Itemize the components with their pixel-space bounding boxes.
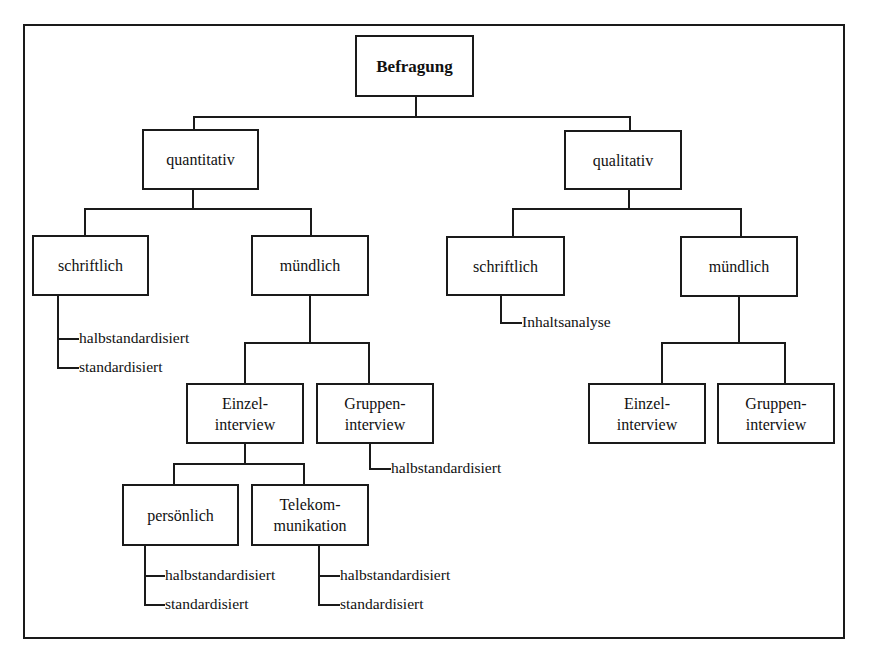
- node-qual-gruppeninterview: Gruppen- interview: [717, 383, 835, 444]
- node-label: Telekom- munikation: [274, 494, 347, 536]
- node-qualitativ: qualitativ: [564, 130, 682, 190]
- node-telekommunikation: Telekom- munikation: [251, 484, 369, 546]
- leaf-halbstandardisiert: halbstandardisiert: [340, 566, 450, 584]
- connector: [57, 367, 79, 369]
- connector: [244, 342, 246, 384]
- connector: [57, 295, 59, 369]
- connector: [661, 342, 663, 384]
- connector: [303, 463, 305, 485]
- node-label: mündlich: [280, 255, 340, 276]
- node-label: Gruppen- interview: [745, 393, 806, 435]
- node-label: persönlich: [147, 505, 214, 526]
- connector: [57, 338, 79, 340]
- leaf-standardisiert: standardisiert: [79, 358, 163, 376]
- connector: [628, 189, 630, 210]
- connector: [629, 116, 631, 130]
- leaf-standardisiert: standardisiert: [165, 595, 249, 613]
- connector: [500, 295, 502, 324]
- node-befragung: Befragung: [355, 35, 474, 97]
- node-label: schriftlich: [58, 255, 123, 276]
- connector: [738, 296, 740, 344]
- connector: [309, 295, 311, 343]
- leaf-inhaltsanalyse: Inhaltsanalyse: [522, 313, 611, 331]
- connector: [369, 468, 391, 470]
- node-qual-einzelinterview: Einzel- interview: [588, 383, 706, 444]
- connector: [193, 116, 631, 118]
- node-quant-schriftlich: schriftlich: [32, 235, 149, 296]
- leaf-halbstandardisiert: halbstandardisiert: [79, 329, 189, 347]
- node-qual-schriftlich: schriftlich: [446, 236, 565, 296]
- node-quant-gruppeninterview: Gruppen- interview: [316, 383, 434, 444]
- node-label: Befragung: [376, 56, 453, 77]
- node-label: schriftlich: [473, 256, 538, 277]
- node-label: Einzel- interview: [617, 393, 677, 435]
- connector: [318, 575, 340, 577]
- node-label: qualitativ: [593, 150, 653, 171]
- connector: [369, 443, 371, 470]
- connector: [310, 208, 312, 236]
- node-label: Gruppen- interview: [344, 393, 405, 435]
- leaf-halbstandardisiert: halbstandardisiert: [391, 459, 501, 477]
- connector: [661, 342, 786, 344]
- connector: [740, 208, 742, 236]
- node-persoenlich: persönlich: [122, 484, 239, 546]
- connector: [192, 189, 194, 210]
- connector: [512, 208, 514, 236]
- connector: [84, 208, 312, 210]
- node-label: quantitativ: [166, 149, 234, 170]
- node-quant-muendlich: mündlich: [251, 235, 369, 296]
- connector: [368, 342, 370, 384]
- leaf-standardisiert: standardisiert: [340, 595, 424, 613]
- connector: [784, 342, 786, 384]
- connector: [500, 322, 522, 324]
- connector: [173, 463, 305, 465]
- connector: [193, 116, 195, 130]
- connector: [173, 463, 175, 485]
- leaf-halbstandardisiert: halbstandardisiert: [165, 566, 275, 584]
- node-quant-einzelinterview: Einzel- interview: [186, 383, 304, 444]
- connector: [512, 208, 742, 210]
- connector: [318, 604, 340, 606]
- node-qual-muendlich: mündlich: [680, 236, 798, 297]
- node-label: mündlich: [709, 256, 769, 277]
- connector: [244, 342, 370, 344]
- connector: [144, 604, 165, 606]
- node-quantitativ: quantitativ: [142, 129, 259, 190]
- connector: [84, 208, 86, 236]
- connector: [144, 575, 165, 577]
- node-label: Einzel- interview: [215, 393, 275, 435]
- connector: [244, 443, 246, 464]
- connector: [415, 96, 417, 117]
